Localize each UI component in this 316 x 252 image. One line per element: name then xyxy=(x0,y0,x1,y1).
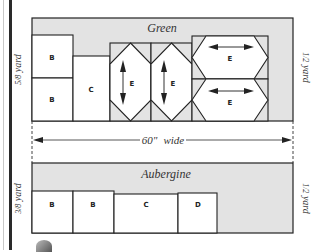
piece-c xyxy=(114,194,178,233)
arrow-left-icon xyxy=(33,137,43,143)
piece-c-label: C xyxy=(88,86,93,94)
piece-b-1-label: B xyxy=(49,201,54,209)
piece-e-2-label: E xyxy=(171,80,176,88)
aubergine-panel-title: Aubergine xyxy=(140,167,191,181)
piece-c-label: C xyxy=(143,201,148,209)
piece-e-vertical-1: E xyxy=(110,43,151,121)
piece-b-2-label: B xyxy=(90,201,95,209)
piece-d-label: D xyxy=(195,201,201,209)
piece-e-horizontal-1: E xyxy=(192,36,268,79)
piece-d xyxy=(178,193,217,233)
aubergine-right-measure: 1/2 yard xyxy=(301,176,312,222)
arrow-right-icon xyxy=(282,137,292,143)
aubergine-left-measure: 3/8 yard xyxy=(12,176,23,222)
piece-b-1-label: B xyxy=(49,54,54,62)
green-left-measure: 5/8 yard xyxy=(12,47,23,93)
piece-e-4-label: E xyxy=(228,99,233,107)
piece-b-2-label: B xyxy=(49,96,54,104)
piece-e-1-label: E xyxy=(130,80,135,88)
piece-e-vertical-2: E xyxy=(151,43,192,121)
piece-b-1 xyxy=(32,191,73,233)
green-fabric-panel: Green B B C E E xyxy=(32,18,293,121)
piece-e-horizontal-2: E xyxy=(192,79,268,121)
green-panel-title: Green xyxy=(147,21,177,35)
piece-e-3-label: E xyxy=(228,55,233,63)
corner-decoration-icon xyxy=(36,240,52,252)
aubergine-fabric-panel: Aubergine B B C D xyxy=(32,163,293,233)
piece-b-2 xyxy=(73,191,114,233)
green-right-measure: 1/2 yard xyxy=(301,45,312,91)
width-dimension: 60" wide xyxy=(32,121,293,163)
width-dimension-label: 60" wide xyxy=(142,130,185,147)
